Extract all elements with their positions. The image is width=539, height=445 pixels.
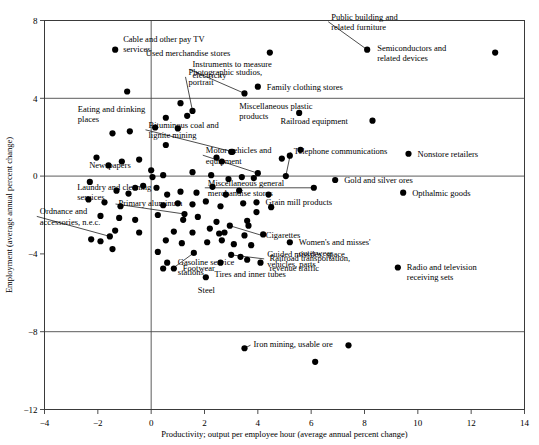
- data-point: [127, 128, 133, 134]
- x-tick-label: 14: [520, 418, 530, 428]
- data-point: [149, 174, 155, 180]
- point-label: Family clothing stores: [267, 82, 343, 92]
- y-tick-label: 0: [33, 171, 38, 181]
- y-tick-label: −8: [28, 327, 38, 337]
- data-point: [189, 201, 195, 207]
- data-point: [253, 209, 259, 215]
- scatter-figure: −4−202468101214840−4−8−12 Cable and othe…: [0, 0, 539, 445]
- data-point-labeled: [241, 90, 247, 96]
- y-tick-label: 4: [33, 94, 38, 104]
- scatter-plot-svg: −4−202468101214840−4−8−12 Cable and othe…: [0, 0, 539, 445]
- data-point-labeled: [241, 345, 247, 351]
- point-label: Nonstore retailers: [418, 149, 479, 159]
- data-point: [184, 113, 190, 119]
- data-point-labeled: [148, 167, 154, 173]
- data-point-labeled: [364, 47, 370, 53]
- data-point: [132, 217, 138, 223]
- data-point: [248, 242, 254, 248]
- point-label: Steel: [198, 285, 216, 295]
- point-label: Used merchandise stores: [146, 48, 231, 58]
- x-tick-label: 2: [202, 418, 207, 428]
- data-point: [221, 229, 227, 235]
- data-point-labeled: [112, 47, 118, 53]
- data-point: [189, 169, 195, 175]
- data-point-labeled: [287, 239, 293, 245]
- data-point: [203, 198, 209, 204]
- data-point: [244, 257, 250, 263]
- x-tick-label: 0: [149, 418, 154, 428]
- x-tick-label: 6: [309, 418, 314, 428]
- data-point: [345, 342, 351, 348]
- data-point: [88, 236, 94, 242]
- data-point: [180, 217, 186, 223]
- point-label: Telephone communications: [294, 146, 388, 156]
- data-point: [237, 254, 243, 260]
- data-point-labeled: [267, 49, 273, 55]
- point-label: Primary aluminum: [119, 198, 183, 208]
- data-point-labeled: [255, 170, 261, 176]
- point-label: Tires and inner tubes: [215, 269, 286, 279]
- data-point: [164, 191, 170, 197]
- y-tick-label: −12: [23, 405, 37, 415]
- data-point: [204, 239, 210, 245]
- data-point: [109, 130, 115, 136]
- x-tick-label: 8: [362, 418, 367, 428]
- data-point: [231, 241, 237, 247]
- data-point-labeled: [400, 190, 406, 196]
- data-point-labeled: [107, 233, 113, 239]
- data-point-labeled: [227, 223, 233, 229]
- data-point-labeled: [311, 185, 317, 191]
- data-point: [195, 214, 201, 220]
- y-axis-title: Employment (average annual percent chang…: [4, 137, 14, 293]
- data-point-labeled: [191, 250, 197, 256]
- x-tick-label: −4: [40, 418, 50, 428]
- data-point: [207, 226, 213, 232]
- data-point: [112, 227, 118, 233]
- data-point: [171, 228, 177, 234]
- data-point-labeled: [189, 108, 195, 114]
- data-point: [189, 229, 195, 235]
- data-point: [216, 230, 222, 236]
- data-point-labeled: [492, 49, 498, 55]
- data-point: [240, 200, 246, 206]
- data-point: [160, 172, 166, 178]
- data-point: [97, 238, 103, 244]
- point-label: Cigarettes: [266, 230, 300, 240]
- data-point: [155, 249, 161, 255]
- data-point: [241, 232, 247, 238]
- data-point-labeled: [171, 265, 177, 271]
- point-label: Opthalmic goods: [412, 188, 470, 198]
- x-tick-label: 10: [413, 418, 423, 428]
- y-tick-label: −4: [28, 249, 38, 259]
- data-point: [312, 359, 318, 365]
- data-point: [136, 156, 142, 162]
- data-point-labeled: [395, 264, 401, 270]
- data-point: [116, 215, 122, 221]
- data-point: [217, 203, 223, 209]
- data-point: [109, 246, 115, 252]
- x-tick-label: 12: [467, 418, 476, 428]
- data-point-labeled: [253, 199, 259, 205]
- y-tick-label: 8: [33, 16, 38, 26]
- data-point: [179, 240, 185, 246]
- data-point-labeled: [181, 211, 187, 217]
- data-point-labeled: [405, 151, 411, 157]
- data-point: [163, 142, 169, 148]
- point-label: Gold and silver ores: [344, 175, 413, 185]
- point-label: Footwear: [183, 263, 215, 273]
- data-point-labeled: [332, 177, 338, 183]
- data-point: [213, 219, 219, 225]
- x-tick-label: −2: [93, 418, 103, 428]
- data-point: [164, 260, 170, 266]
- data-point: [155, 212, 161, 218]
- point-label: Iron mining, usable ore: [254, 339, 334, 349]
- data-point: [124, 88, 130, 94]
- data-point: [245, 223, 251, 229]
- x-tick-label: 4: [256, 418, 261, 428]
- data-point: [279, 155, 285, 161]
- data-point-labeled: [369, 118, 375, 124]
- data-point: [287, 153, 293, 159]
- point-label: Grain mill products: [266, 197, 333, 207]
- data-point: [136, 229, 142, 235]
- x-axis-title: Productivity; output per employee hour (…: [161, 429, 408, 439]
